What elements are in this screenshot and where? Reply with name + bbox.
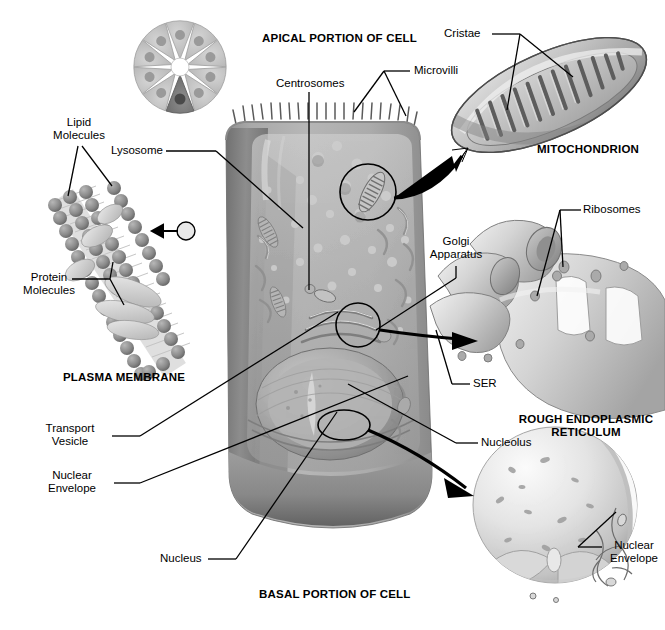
label-lipid-molecules: Lipid Molecules <box>40 116 118 142</box>
heading-mitochondrion: MITOCHONDRION <box>537 143 639 156</box>
heading-apical: APICAL PORTION OF CELL <box>262 32 417 45</box>
label-protein-molecules: Protein Molecules <box>10 271 88 297</box>
label-ribosomes: Ribosomes <box>583 203 641 216</box>
label-lysosome: Lysosome <box>111 144 163 157</box>
label-nucleus: Nucleus <box>160 552 202 565</box>
cell-body <box>224 103 433 530</box>
label-cristae: Cristae <box>444 27 480 40</box>
label-transport-vesicle: Transport Vesicle <box>30 422 110 448</box>
label-nuclear-envelope-left: Nuclear Envelope <box>32 469 112 495</box>
label-microvilli: Microvilli <box>414 64 458 77</box>
label-nucleolus: Nucleolus <box>481 436 532 449</box>
label-centrosomes: Centrosomes <box>276 77 344 90</box>
heading-basal: BASAL PORTION OF CELL <box>259 588 411 601</box>
heading-rough-er-line1: ROUGH ENDOPLASMIC <box>506 413 665 426</box>
figure-canvas: APICAL PORTION OF CELL BASAL PORTION OF … <box>0 0 665 630</box>
cell-illustration <box>0 0 665 630</box>
label-golgi-apparatus: Golgi Apparatus <box>416 235 496 261</box>
label-nuclear-envelope-right: Nuclear Envelope <box>604 539 664 565</box>
magnifier-bubble <box>177 222 195 240</box>
heading-plasma-membrane: PLASMA MEMBRANE <box>63 371 185 384</box>
rosette-inset <box>132 21 228 113</box>
label-ser: SER <box>473 377 497 390</box>
